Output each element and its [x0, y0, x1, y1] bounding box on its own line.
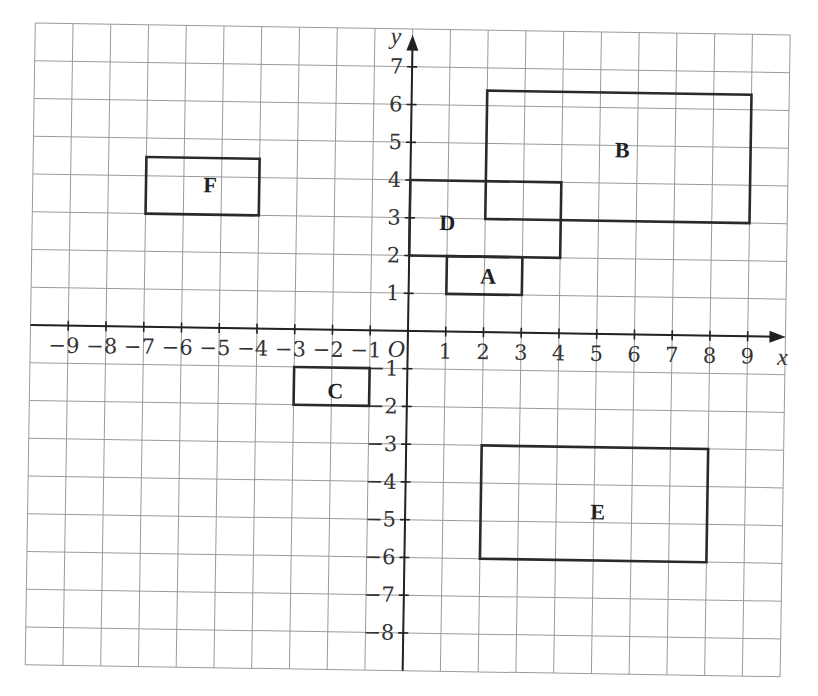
y-tick-label: −4	[365, 469, 396, 493]
y-tick-label: −2	[367, 394, 398, 418]
y-tick-label: 6	[389, 92, 403, 116]
x-tick-label: 5	[590, 342, 604, 366]
y-tick-label: 7	[390, 54, 404, 78]
x-tick-label: −3	[275, 337, 306, 361]
shape-label-b: B	[615, 137, 630, 162]
shape-label-c: C	[327, 378, 343, 403]
y-tick-label: −8	[363, 620, 394, 644]
origin-label: O	[387, 336, 405, 362]
x-tick-label: −9	[48, 333, 79, 357]
y-tick-label: −5	[365, 507, 396, 531]
x-tick-label: 4	[552, 341, 566, 365]
y-tick-label: 5	[388, 130, 402, 154]
plot-area: −9−8−7−6−5−4−3−2−11234567897654321−1−2−3…	[25, 17, 793, 676]
y-tick-label: −7	[364, 583, 395, 607]
shape-label-d: D	[439, 210, 455, 235]
x-tick-label: −6	[162, 335, 193, 359]
y-tick-label: 3	[387, 205, 401, 229]
x-tick-label: −2	[313, 338, 344, 362]
coordinate-grid-diagram: −9−8−7−6−5−4−3−2−11234567897654321−1−2−3…	[0, 0, 818, 696]
shape-label-f: F	[203, 172, 217, 197]
x-tick-label: 6	[627, 342, 641, 366]
x-tick-label: 1	[439, 339, 453, 363]
x-tick-label: −4	[237, 336, 268, 360]
x-tick-label: −8	[86, 334, 117, 358]
x-axis-arrow-icon	[769, 331, 785, 343]
y-tick-label: 2	[387, 243, 401, 267]
x-tick-label: 9	[741, 344, 755, 368]
x-tick-label: 8	[703, 344, 717, 368]
x-tick-label: −7	[124, 335, 155, 359]
x-tick-label: 3	[514, 341, 528, 365]
y-axis-label: y	[388, 23, 401, 49]
x-tick-label: −5	[199, 336, 230, 360]
grid-line-vertical	[25, 23, 35, 665]
y-tick-label: −6	[364, 545, 395, 569]
x-tick-label: 7	[665, 343, 679, 367]
y-tick-label: 1	[386, 281, 400, 305]
x-tick-label: 2	[476, 340, 490, 364]
y-tick-label: −3	[366, 432, 397, 456]
shape-label-e: E	[590, 499, 605, 524]
x-axis-label: x	[776, 344, 788, 370]
shape-label-a: A	[480, 264, 496, 289]
y-tick-label: 4	[388, 168, 402, 192]
y-axis-arrow-icon	[406, 35, 418, 51]
axes: −9−8−7−6−5−4−3−2−11234567897654321−1−2−3…	[25, 17, 793, 676]
